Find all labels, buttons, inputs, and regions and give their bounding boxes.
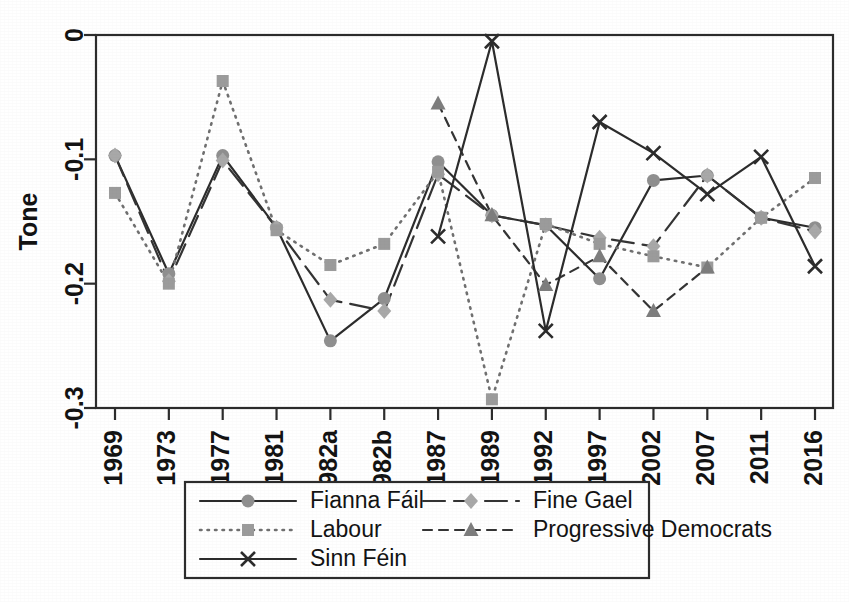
- circle-marker-icon: [593, 272, 606, 285]
- series-markers-group: [108, 34, 822, 405]
- legend-label: Progressive Democrats: [533, 516, 772, 542]
- square-marker-icon: [217, 75, 229, 87]
- x-marker-icon: [646, 146, 660, 160]
- data-point-fianna-fáil-marker: [593, 272, 606, 285]
- y-axis-title: Tone: [14, 192, 42, 250]
- circle-marker-icon: [242, 495, 255, 508]
- y-axis-tick-label: 0: [60, 28, 88, 42]
- square-marker-icon: [809, 172, 821, 184]
- square-marker-icon: [271, 224, 283, 236]
- legend-label: Fianna Fáil: [310, 487, 424, 513]
- data-point-labour-marker: [755, 212, 767, 224]
- series-line-fianna-fáil: [115, 156, 815, 341]
- data-point-labour-marker: [432, 166, 444, 178]
- data-point-labour-marker: [486, 393, 498, 405]
- diamond-marker-icon: [108, 148, 122, 164]
- triangle-marker-icon: [538, 277, 553, 291]
- x-axis-tick-label: 1977: [206, 430, 234, 486]
- x-marker-icon: [700, 187, 714, 201]
- data-point-sinn-féin-marker: [646, 146, 660, 160]
- data-point-fine-gael-marker: [108, 148, 122, 164]
- x-axis-tick-label: 2011: [745, 430, 773, 484]
- data-point-labour-marker: [217, 75, 229, 87]
- data-point-labour-marker: [809, 172, 821, 184]
- series-line-sinn-féin: [438, 41, 815, 331]
- plot-frame: [96, 35, 833, 408]
- x-marker-icon: [754, 150, 768, 164]
- x-marker-icon: [593, 115, 607, 129]
- series-lines-group: [115, 41, 815, 399]
- square-marker-icon: [242, 524, 254, 536]
- data-point-progressive-democrats-marker: [538, 277, 553, 291]
- circle-marker-icon: [647, 174, 660, 187]
- data-point-fianna-fáil-marker: [647, 174, 660, 187]
- x-axis-tick-label: 2016: [799, 430, 827, 486]
- data-point-labour-marker: [540, 218, 552, 230]
- data-point-labour-marker: [594, 238, 606, 250]
- x-axis-tick-label: 1989: [476, 430, 504, 486]
- x-marker-icon: [808, 259, 822, 273]
- triangle-marker-icon: [592, 248, 607, 262]
- x-axis-tick-label: 1969: [99, 430, 127, 486]
- data-point-labour-marker: [271, 224, 283, 236]
- square-marker-icon: [540, 218, 552, 230]
- square-marker-icon: [755, 212, 767, 224]
- chart-canvas: 0-0.1-0.2-0.3Tone19691973197719811982a19…: [0, 0, 849, 602]
- data-point-fine-gael-marker: [377, 303, 391, 319]
- data-point-sinn-féin-marker: [700, 187, 714, 201]
- data-point-sinn-féin-marker: [593, 115, 607, 129]
- x-axis-tick-label: 2007: [691, 430, 719, 486]
- square-marker-icon: [594, 238, 606, 250]
- chart-legend: Fianna FáilFine GaelLabourProgressive De…: [185, 482, 772, 578]
- x-axis-tick-label: 1987: [422, 430, 450, 486]
- y-axis-tick-label: -0.1: [60, 138, 88, 181]
- x-axis-tick-label: 1973: [152, 430, 180, 486]
- square-marker-icon: [486, 393, 498, 405]
- square-marker-icon: [647, 250, 659, 262]
- data-point-labour-marker: [378, 238, 390, 250]
- data-point-labour-marker: [647, 250, 659, 262]
- data-point-sinn-féin-marker: [754, 150, 768, 164]
- data-point-progressive-democrats-marker: [431, 95, 446, 109]
- square-marker-icon: [378, 238, 390, 250]
- data-point-labour-marker: [163, 278, 175, 290]
- data-point-labour-marker: [324, 259, 336, 271]
- tone-line-chart-figure: 0-0.1-0.2-0.3Tone19691973197719811982a19…: [0, 0, 849, 602]
- circle-marker-icon: [324, 334, 337, 347]
- data-point-progressive-democrats-marker: [592, 248, 607, 262]
- series-line-labour: [115, 81, 815, 399]
- square-marker-icon: [432, 166, 444, 178]
- series-line-progressive-democrats: [438, 103, 707, 311]
- legend-label: Labour: [310, 516, 382, 542]
- triangle-marker-icon: [431, 95, 446, 109]
- x-marker-icon: [431, 229, 445, 243]
- x-axis-tick-label: 1992: [529, 430, 557, 486]
- x-axis-tick-label: 2002: [637, 430, 665, 486]
- legend-label: Sinn Féin: [310, 545, 407, 571]
- legend-circle-marker: [242, 495, 255, 508]
- data-point-fianna-fáil-marker: [324, 334, 337, 347]
- legend-square-marker: [242, 524, 254, 536]
- x-axis-tick-label: 1997: [583, 430, 611, 486]
- data-point-sinn-féin-marker: [431, 229, 445, 243]
- square-marker-icon: [109, 187, 121, 199]
- data-point-sinn-féin-marker: [808, 259, 822, 273]
- square-marker-icon: [324, 259, 336, 271]
- diamond-marker-icon: [377, 303, 391, 319]
- y-axis-tick-label: -0.2: [60, 262, 88, 305]
- square-marker-icon: [163, 278, 175, 290]
- data-point-labour-marker: [109, 187, 121, 199]
- y-axis-tick-label: -0.3: [60, 386, 88, 429]
- legend-label: Fine Gael: [533, 487, 633, 513]
- x-axis-tick-label: 1981: [260, 430, 288, 486]
